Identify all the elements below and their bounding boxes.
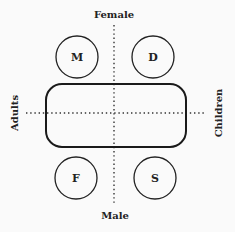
axis-label-left: Adults bbox=[9, 95, 20, 132]
axis-label-top: Female bbox=[94, 9, 134, 20]
node-m: M bbox=[56, 36, 98, 78]
node-s: S bbox=[134, 157, 176, 199]
center-rounded-rect bbox=[46, 84, 186, 147]
node-s-label: S bbox=[151, 172, 159, 185]
node-f-label: F bbox=[72, 172, 80, 185]
node-f: F bbox=[55, 157, 97, 199]
family-diagram: M D F S Female Male Adults Children bbox=[0, 0, 235, 232]
axis-label-bottom: Male bbox=[101, 210, 129, 221]
axis-label-right: Children bbox=[213, 88, 224, 137]
node-m-label: M bbox=[71, 51, 83, 64]
node-d: D bbox=[132, 36, 174, 78]
node-d-label: D bbox=[148, 51, 158, 64]
